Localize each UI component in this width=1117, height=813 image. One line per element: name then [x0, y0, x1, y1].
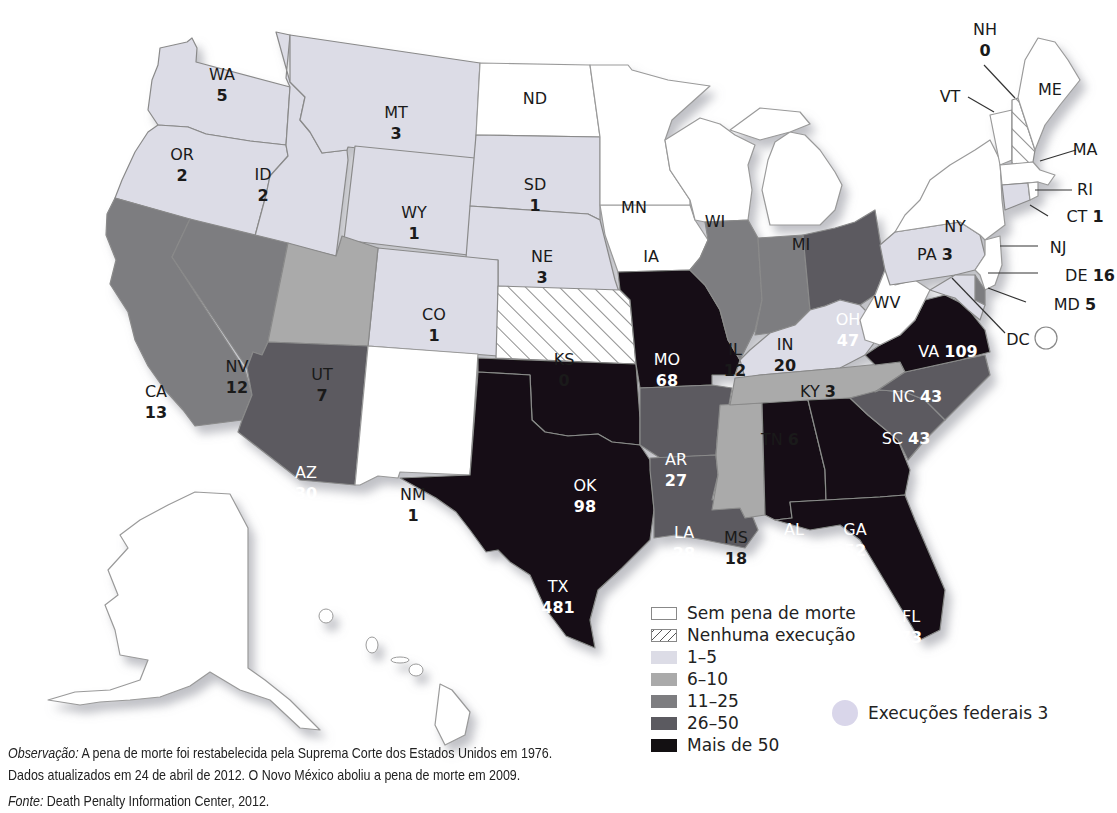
federal-executions: Execuções federais 3: [832, 700, 1048, 726]
swatch-50-plus: [651, 739, 677, 752]
state-value-ne: 3: [536, 268, 547, 287]
swatch-hatch: [651, 629, 677, 642]
swatch-26-50: [651, 717, 677, 730]
notes: Observação: A pena de morte foi restabel…: [8, 742, 552, 812]
state-value-mo: 68: [656, 371, 678, 390]
state-value-co: 1: [428, 326, 439, 345]
legend-label: 1–5: [687, 647, 717, 667]
state-value-id: 2: [257, 186, 268, 205]
legend-label: 6–10: [687, 669, 728, 689]
us-map: WA5OR2ID2MT3WY1NDSD1NE3CO1CA13NV12UT7AZ3…: [0, 0, 1117, 813]
observation: Observação: A pena de morte foi restabel…: [8, 742, 552, 764]
state-value-ga: 52: [844, 541, 866, 560]
state-AK[interactable]: [48, 492, 320, 730]
state-CT[interactable]: [1002, 183, 1030, 210]
state-label-va: VA 109: [918, 342, 977, 361]
source: Fonte: Death Penalty Information Center,…: [8, 790, 552, 812]
state-MT[interactable]: [290, 35, 480, 160]
state-value-sd: 1: [529, 196, 540, 215]
swatch-none: [651, 607, 677, 620]
state-value-wy: 1: [408, 224, 419, 243]
state-label-il: IL: [728, 340, 742, 359]
state-label-mt: MT: [384, 103, 408, 122]
state-label-nh: NH: [973, 20, 997, 39]
hi-island-3: [391, 657, 409, 663]
legend-label: 26–50: [687, 713, 739, 733]
state-value-in: 20: [774, 356, 796, 375]
state-value-ok: 98: [574, 497, 596, 516]
federal-dot-icon: [832, 700, 858, 726]
state-HI[interactable]: [435, 684, 470, 745]
dc-marker[interactable]: [1035, 327, 1057, 349]
state-label-vt: VT: [940, 87, 961, 106]
legend-label: 11–25: [687, 691, 739, 711]
state-label-in: IN: [777, 335, 794, 354]
legend-item-zero: Nenhuma execução: [651, 624, 856, 646]
state-label-ok: OK: [573, 476, 597, 495]
state-label-ca: CA: [145, 382, 167, 401]
state-label-oh: OH: [836, 310, 861, 329]
state-value-fl: 73: [900, 628, 922, 647]
legend-item-none: Sem pena de morte: [651, 602, 856, 624]
state-label-al: AL: [784, 520, 804, 539]
state-value-ca: 13: [145, 403, 167, 422]
state-label-ma: MA: [1073, 140, 1098, 159]
state-label-id: ID: [254, 165, 271, 184]
state-label-ut: UT: [311, 365, 333, 384]
state-value-nh: 0: [979, 41, 990, 60]
state-NM[interactable]: [355, 346, 478, 485]
state-RI[interactable]: [1028, 182, 1038, 200]
swatch-1-5: [651, 651, 677, 664]
state-label-tx: TX: [547, 577, 569, 596]
state-value-ks: 0: [558, 371, 569, 390]
state-label-md: MD 5: [1054, 295, 1096, 314]
state-label-nj: NJ: [1050, 238, 1067, 257]
federal-label: Execuções federais 3: [868, 703, 1048, 723]
state-label-pa: PA 3: [917, 245, 953, 264]
hi-island-1: [319, 609, 333, 623]
update-note: Dados atualizados em 24 de abril de 2012…: [8, 764, 552, 786]
state-label-nd: ND: [523, 89, 547, 108]
state-value-or: 2: [176, 166, 187, 185]
state-MA[interactable]: [1000, 162, 1055, 185]
hi-island-4: [409, 664, 423, 676]
legend-item-50-plus: Mais de 50: [651, 734, 856, 756]
state-label-mi: MI: [792, 235, 811, 254]
state-MS[interactable]: [712, 403, 765, 518]
hi-island-2: [366, 637, 378, 653]
state-label-ct: CT 1: [1066, 207, 1103, 226]
state-value-il: 12: [724, 361, 746, 380]
state-label-sc: SC 43: [882, 429, 931, 448]
observation-label: Observação:: [8, 745, 79, 761]
state-label-sd: SD: [524, 175, 546, 194]
state-value-ut: 7: [316, 386, 327, 405]
state-label-ar: AR: [665, 450, 687, 469]
swatch-11-25: [651, 695, 677, 708]
state-value-mt: 3: [390, 124, 401, 143]
legend-item-26-50: 26–50: [651, 712, 856, 734]
state-label-me: ME: [1038, 80, 1062, 99]
state-label-ms: MS: [724, 528, 748, 547]
state-label-ga: GA: [843, 520, 866, 539]
state-label-az: AZ: [295, 463, 317, 482]
state-value-nm: 1: [407, 506, 418, 525]
state-label-mn: MN: [621, 198, 647, 217]
legend-item-6-10: 6–10: [651, 668, 856, 690]
legend-item-11-25: 11–25: [651, 690, 856, 712]
state-label-wa: WA: [209, 65, 235, 84]
state-value-al: 55: [783, 541, 805, 560]
state-value-az: 30: [295, 484, 317, 503]
legend-label: Sem pena de morte: [687, 603, 856, 623]
state-label-wy: WY: [401, 203, 427, 222]
state-label-ne: NE: [531, 247, 553, 266]
state-value-nv: 12: [226, 378, 248, 397]
state-label-co: CO: [422, 305, 446, 324]
state-value-wa: 5: [216, 86, 227, 105]
state-label-ia: IA: [643, 247, 659, 266]
state-label-ri: RI: [1077, 180, 1093, 199]
state-label-de: DE 16: [1065, 266, 1115, 285]
state-label-la: LA: [674, 523, 694, 542]
state-label-ny: NY: [944, 217, 966, 236]
observation-text: A pena de morte foi restabelecida pela S…: [79, 745, 552, 761]
legend-item-1-5: 1–5: [651, 646, 856, 668]
